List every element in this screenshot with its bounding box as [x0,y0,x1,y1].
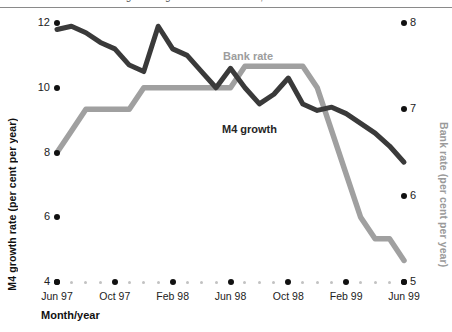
x-axis-minor-tick-dot [99,281,102,284]
left-axis-tick-label: 6 [30,211,50,222]
x-axis-major-tick-dot [170,279,176,285]
x-axis-minor-tick-dot [374,281,377,284]
x-axis-minor-tick-dot [301,281,304,284]
left-axis-title: M4 growth rate (per cent per year) [6,118,18,291]
x-axis-major-tick-dot [401,279,407,285]
right-axis-tick-label: 5 [410,276,416,287]
right-axis-tick-label: 7 [410,103,416,114]
series-label-bank-rate: Bank rate [223,50,273,62]
right-axis-tick-dot [401,193,407,199]
x-axis-minor-tick-dot [316,281,319,284]
chart-figure: Figure M4 growth and Bank rate, Jun 97 -… [0,0,452,332]
x-axis-minor-tick-dot [200,281,203,284]
left-axis-tick-label: 10 [30,82,50,93]
x-axis-tick-label: Oct 97 [99,291,130,302]
right-axis-title: Bank rate (per cent per year) [438,122,450,267]
x-axis-minor-tick-dot [215,281,218,284]
left-axis-tick-label: 8 [30,147,50,158]
left-axis-tick-dot [54,20,60,26]
x-axis-minor-tick-dot [128,281,131,284]
x-axis-minor-tick-dot [258,281,261,284]
left-axis-tick-dot [54,85,60,91]
x-axis-minor-tick-dot [186,281,189,284]
x-axis-minor-tick-dot [142,281,145,284]
x-axis-major-tick-dot [228,279,234,285]
left-axis-tick-dot [54,150,60,156]
x-axis-tick-label: Jun 97 [41,291,73,302]
x-axis-minor-tick-dot [359,281,362,284]
x-axis-minor-tick-dot [330,281,333,284]
x-axis-title: Month/year [41,309,100,321]
x-axis-major-tick-dot [54,279,60,285]
right-axis-tick-label: 8 [410,17,416,28]
m4-growth-line [57,26,404,162]
x-axis-tick-label: Jun 99 [388,291,420,302]
x-axis-major-tick-dot [112,279,118,285]
left-axis-tick-label: 4 [30,276,50,287]
x-axis-minor-tick-dot [157,281,160,284]
x-axis-tick-label: Jun 98 [215,291,247,302]
right-axis-tick-label: 6 [410,190,416,201]
right-axis-tick-dot [401,20,407,26]
bank-rate-line [57,66,404,260]
x-axis-tick-label: Feb 98 [156,291,189,302]
x-axis-minor-tick-dot [70,281,73,284]
left-axis-tick-label: 12 [30,17,50,28]
x-axis-tick-label: Feb 99 [330,291,363,302]
series-label-m4-growth: M4 growth [222,123,277,135]
x-axis-tick-label: Oct 98 [273,291,304,302]
x-axis-minor-tick-dot [388,281,391,284]
